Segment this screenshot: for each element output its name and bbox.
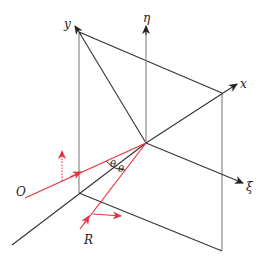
xi-axis-label: ξ: [246, 180, 254, 194]
incident-ray-label: O: [16, 185, 26, 199]
x-axis-label: x: [240, 77, 247, 91]
reflected-ray-label: R: [83, 233, 93, 247]
incident-ray: [25, 143, 146, 198]
x-axis: [146, 84, 237, 143]
xi-axis: [146, 143, 243, 183]
diagonal-y-origin: [79, 32, 146, 143]
eta-axis-label: η: [143, 11, 151, 25]
y-axis-label: y: [63, 17, 71, 31]
reflection-geometry-diagram: y η x ξ O R θ θ: [0, 0, 268, 262]
angle-theta-1-label: θ: [110, 158, 116, 169]
reflected-ray-arrowhead: [84, 216, 89, 224]
reflected-polarization-arrow: [93, 214, 121, 216]
top-edge: [79, 32, 222, 93]
angle-theta-2-label: θ: [118, 163, 124, 174]
y-axis-arrow: [75, 26, 81, 35]
